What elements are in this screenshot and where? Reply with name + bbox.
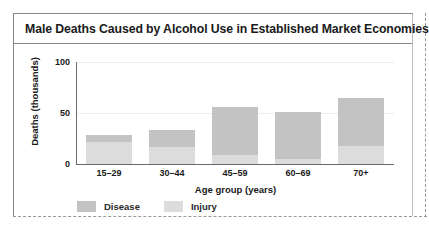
x-tick-45-59: 45–59 xyxy=(222,168,247,178)
bar-slot-70-plus xyxy=(338,44,384,164)
legend-label-disease: Disease xyxy=(104,201,140,212)
x-tick-70-plus: 70+ xyxy=(353,168,368,178)
bar-segment-injury-45-59 xyxy=(212,155,258,164)
bar-slot-60-69 xyxy=(275,44,321,164)
bar-segment-disease-30-44 xyxy=(149,130,195,146)
bar-segment-disease-60-69 xyxy=(275,112,321,159)
x-tick-30-44: 30–44 xyxy=(159,168,184,178)
bar-30-44[interactable] xyxy=(149,130,195,164)
x-axis-line xyxy=(76,164,394,165)
x-tick-60-69: 60–69 xyxy=(285,168,310,178)
bar-slot-45-59 xyxy=(212,44,258,164)
legend-item-disease[interactable]: Disease xyxy=(77,201,140,212)
y-tick-0: 0 xyxy=(44,159,70,169)
crop-mark-right xyxy=(425,13,426,217)
bar-60-69[interactable] xyxy=(275,112,321,164)
bar-segment-injury-15-29 xyxy=(86,142,132,165)
chart-panel: Male Deaths Caused by Alcohol Use in Est… xyxy=(13,13,413,216)
bar-segment-injury-30-44 xyxy=(149,147,195,164)
bar-group xyxy=(77,44,394,164)
bar-45-59[interactable] xyxy=(212,107,258,164)
bar-segment-injury-60-69 xyxy=(275,159,321,164)
bar-segment-disease-45-59 xyxy=(212,107,258,155)
bar-70-plus[interactable] xyxy=(338,98,384,164)
y-axis-ticks: 0 50 100 xyxy=(34,44,70,217)
disease-swatch-icon xyxy=(77,201,96,212)
legend-item-injury[interactable]: Injury xyxy=(164,201,217,212)
bar-slot-30-44 xyxy=(149,44,195,164)
plot-area: Deaths (thousands) 0 50 100 xyxy=(14,44,414,217)
chart-title-bar: Male Deaths Caused by Alcohol Use in Est… xyxy=(14,14,412,44)
legend-label-injury: Injury xyxy=(191,201,217,212)
bar-15-29[interactable] xyxy=(86,135,132,164)
chart-legend: Disease Injury xyxy=(77,201,241,212)
x-tick-15-29: 15–29 xyxy=(96,168,121,178)
y-tick-100: 100 xyxy=(44,57,70,67)
x-axis-title: Age group (years) xyxy=(77,184,394,195)
bar-segment-injury-70-plus xyxy=(338,146,384,164)
injury-swatch-icon xyxy=(164,201,183,212)
bar-slot-15-29 xyxy=(86,44,132,164)
x-axis-ticks: 15–29 30–44 45–59 60–69 70+ xyxy=(77,168,394,182)
bar-segment-disease-70-plus xyxy=(338,98,384,146)
chart-title: Male Deaths Caused by Alcohol Use in Est… xyxy=(14,22,429,36)
y-tick-50: 50 xyxy=(44,108,70,118)
